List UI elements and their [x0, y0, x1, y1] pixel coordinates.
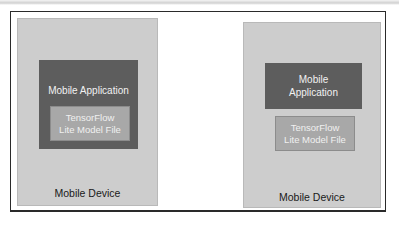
tflite-model-label-left: TensorFlow Lite Model File [59, 112, 121, 136]
tflite-model-file-right: TensorFlow Lite Model File [275, 116, 355, 151]
mobile-application-right: Mobile Application [265, 63, 362, 109]
mobile-device-label-left: Mobile Device [18, 187, 157, 199]
mobile-device-label-right: Mobile Device [244, 191, 380, 203]
mobile-device-left: Mobile Application TensorFlow Lite Model… [17, 18, 158, 206]
tflite-model-label-right: TensorFlow Lite Model File [284, 122, 346, 146]
mobile-application-label-right: Mobile Application [289, 73, 338, 99]
page-top-edge [0, 0, 399, 5]
mobile-application-left: Mobile Application TensorFlow Lite Model… [39, 60, 138, 149]
mobile-device-right: Mobile Application TensorFlow Lite Model… [243, 22, 381, 208]
tflite-model-file-left: TensorFlow Lite Model File [50, 106, 130, 141]
mobile-application-label-left: Mobile Application [39, 84, 138, 97]
